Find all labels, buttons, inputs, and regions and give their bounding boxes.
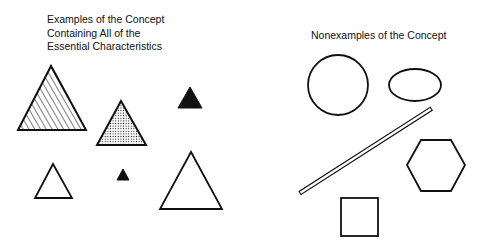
examples-group bbox=[18, 66, 222, 209]
black-triangle bbox=[178, 87, 202, 108]
small-outline-triangle bbox=[35, 164, 72, 198]
square-shape bbox=[341, 198, 378, 236]
hatched-triangle bbox=[18, 66, 86, 130]
dotted-triangle bbox=[97, 101, 146, 145]
hexagon-shape bbox=[407, 140, 465, 191]
concept-diagram bbox=[0, 0, 486, 243]
large-outline-triangle bbox=[160, 152, 222, 209]
nonexamples-group bbox=[299, 55, 465, 236]
circle-shape bbox=[308, 55, 368, 115]
tiny-black-triangle bbox=[117, 169, 129, 180]
line-bar-shape bbox=[299, 107, 432, 194]
ellipse-shape bbox=[389, 69, 441, 101]
